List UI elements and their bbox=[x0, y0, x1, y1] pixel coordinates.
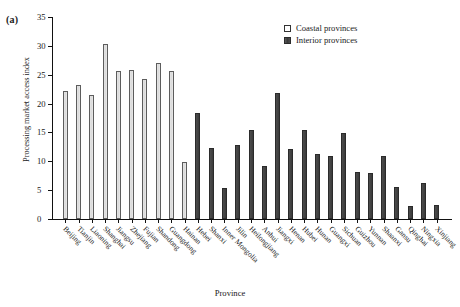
bar-shaanxi bbox=[381, 156, 386, 219]
y-tick-label: 30 bbox=[37, 42, 41, 51]
figure-panel-a: (a) Processing market access index 05101… bbox=[0, 0, 460, 307]
x-tick bbox=[291, 219, 292, 223]
bar-inner-mongolia bbox=[222, 188, 227, 219]
y-tick-30 bbox=[48, 46, 52, 47]
x-tick bbox=[65, 219, 66, 223]
y-tick-15 bbox=[48, 132, 52, 133]
x-tick bbox=[198, 219, 199, 223]
bar-jilin bbox=[235, 145, 240, 219]
x-tick bbox=[437, 219, 438, 223]
x-tick bbox=[238, 219, 239, 223]
x-tick bbox=[317, 219, 318, 223]
bar-shanxi bbox=[209, 148, 214, 219]
bar-jiangxi bbox=[275, 93, 280, 219]
bar-guangxi bbox=[328, 156, 333, 219]
panel-label: (a) bbox=[6, 14, 18, 25]
bar-qinghai bbox=[408, 206, 413, 219]
x-tick bbox=[251, 219, 252, 223]
bar-heilongjiang bbox=[249, 130, 254, 219]
x-tick bbox=[304, 219, 305, 223]
chart-legend: Coastal provinces Interior provinces bbox=[284, 22, 357, 46]
bar-henan bbox=[288, 149, 293, 219]
y-tick-0 bbox=[48, 219, 52, 220]
bar-beijing bbox=[63, 91, 68, 219]
bar-hainan bbox=[182, 162, 187, 219]
plot-area: 05101520253035 BeijingTianjinLiaoningSha… bbox=[52, 17, 452, 220]
bar-hebei bbox=[195, 113, 200, 219]
x-tick bbox=[105, 219, 106, 223]
bar-shandong bbox=[156, 63, 161, 219]
bar-anhui bbox=[262, 166, 267, 219]
x-tick bbox=[171, 219, 172, 223]
x-tick bbox=[370, 219, 371, 223]
x-tick bbox=[79, 219, 80, 223]
x-tick bbox=[158, 219, 159, 223]
bar-tianjin bbox=[76, 85, 81, 219]
bar-gansu bbox=[394, 187, 399, 219]
x-tick bbox=[211, 219, 212, 223]
y-tick-35 bbox=[48, 17, 52, 18]
x-tick bbox=[224, 219, 225, 223]
legend-item-interior: Interior provinces bbox=[284, 34, 357, 46]
bar-xinjiang bbox=[434, 205, 439, 219]
y-tick-label: 5 bbox=[37, 186, 41, 195]
bar-yunnan bbox=[368, 173, 373, 219]
y-tick-label: 15 bbox=[37, 128, 41, 137]
y-tick-label: 35 bbox=[37, 13, 41, 22]
y-tick-label: 20 bbox=[37, 99, 41, 108]
x-tick bbox=[145, 219, 146, 223]
legend-label-coastal: Coastal provinces bbox=[296, 22, 357, 34]
legend-item-coastal: Coastal provinces bbox=[284, 22, 357, 34]
x-tick bbox=[357, 219, 358, 223]
bar-hunan bbox=[315, 154, 320, 219]
x-tick bbox=[410, 219, 411, 223]
y-axis-title: Processing market access index bbox=[22, 10, 31, 210]
bar-zhejiang bbox=[129, 70, 134, 219]
x-axis-line bbox=[52, 219, 452, 220]
y-tick-label: 10 bbox=[37, 157, 41, 166]
bar-guizhou bbox=[355, 172, 360, 219]
x-tick bbox=[92, 219, 93, 223]
bar-shanghai bbox=[103, 44, 108, 219]
y-tick-25 bbox=[48, 75, 52, 76]
legend-swatch-interior-icon bbox=[284, 37, 291, 44]
y-tick-20 bbox=[48, 104, 52, 105]
legend-swatch-coastal-icon bbox=[284, 25, 291, 32]
y-tick-5 bbox=[48, 190, 52, 191]
bar-jiangsu bbox=[116, 71, 121, 219]
x-tick bbox=[264, 219, 265, 223]
x-tick bbox=[423, 219, 424, 223]
y-tick-10 bbox=[48, 161, 52, 162]
bar-liaoning bbox=[89, 95, 94, 219]
x-tick bbox=[344, 219, 345, 223]
y-tick-label: 0 bbox=[37, 215, 41, 224]
y-axis-line bbox=[52, 17, 53, 220]
x-tick bbox=[331, 219, 332, 223]
legend-label-interior: Interior provinces bbox=[296, 34, 357, 46]
bar-guangdong bbox=[169, 71, 174, 219]
bar-ningxia bbox=[421, 183, 426, 219]
x-tick bbox=[384, 219, 385, 223]
bar-sichuan bbox=[341, 133, 346, 219]
bar-fujian bbox=[142, 79, 147, 219]
x-axis-title: Province bbox=[0, 288, 460, 298]
y-tick-label: 25 bbox=[37, 70, 41, 79]
x-tick bbox=[132, 219, 133, 223]
x-tick bbox=[397, 219, 398, 223]
x-tick bbox=[118, 219, 119, 223]
bar-hubei bbox=[302, 130, 307, 219]
x-tick bbox=[185, 219, 186, 223]
x-tick bbox=[278, 219, 279, 223]
